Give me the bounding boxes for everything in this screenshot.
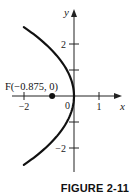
y-axis-label: y xyxy=(63,6,69,18)
figure-caption: FIGURE 2-11 xyxy=(61,182,129,194)
y-axis-arrow-icon xyxy=(71,9,77,17)
x-axis-label: x xyxy=(119,100,125,112)
y-tick-label: −2 xyxy=(55,143,66,154)
focus-label: F(−0.875, 0) xyxy=(5,81,58,93)
origin-label: 0 xyxy=(65,100,70,111)
x-tick-label: −2 xyxy=(19,101,30,112)
x-tick-label: 1 xyxy=(97,101,102,112)
x-axis-arrow-icon xyxy=(114,93,122,99)
parabola-plot: x y 0 −21 2−2 F(−0.875, 0) xyxy=(0,0,131,175)
x-ticks: −21 xyxy=(19,92,102,112)
focus-point xyxy=(49,93,55,99)
y-tick-label: 2 xyxy=(61,39,66,50)
